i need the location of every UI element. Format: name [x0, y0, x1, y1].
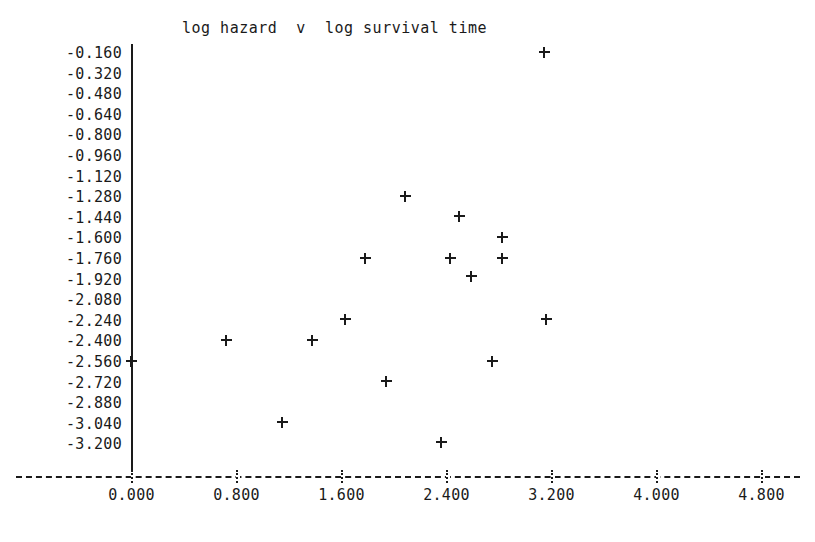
y-axis-tick-label: -1.920	[38, 271, 122, 289]
x-axis-tick-label: 4.000	[612, 486, 702, 504]
x-axis-tick-label: 0.800	[192, 486, 282, 504]
x-axis-tick-mark	[446, 470, 450, 483]
y-axis-tick: -2.240	[38, 312, 122, 328]
y-axis-tick-label: -3.200	[38, 435, 122, 453]
data-point	[466, 271, 477, 282]
y-axis-tick: -1.920	[38, 271, 122, 287]
data-point	[126, 356, 137, 367]
y-axis-tick-label: -1.280	[38, 188, 122, 206]
data-point	[497, 232, 508, 243]
scatter-plot-figure: log hazard v log survival time -0.160-0.…	[0, 0, 815, 542]
y-axis-tick: -0.480	[38, 85, 122, 101]
y-axis-tick-label: -1.760	[38, 250, 122, 268]
data-point	[221, 335, 232, 346]
x-axis-tick-mark	[236, 470, 240, 483]
data-point	[360, 253, 371, 264]
x-axis-tick-mark	[761, 470, 765, 483]
y-axis-tick-label: -2.240	[38, 312, 122, 330]
data-point	[277, 417, 288, 428]
y-axis-tick: -0.160	[38, 44, 122, 60]
y-axis-tick: -1.760	[38, 250, 122, 266]
x-axis-tick-mark	[131, 470, 135, 483]
y-axis-tick-label: -0.640	[38, 106, 122, 124]
y-axis-tick-label: -2.560	[38, 353, 122, 371]
y-axis-tick-label: -2.720	[38, 374, 122, 392]
y-axis-tick-label: -1.120	[38, 168, 122, 186]
y-axis-tick-label: -0.960	[38, 147, 122, 165]
data-point	[487, 356, 498, 367]
y-axis-tick: -0.960	[38, 147, 122, 163]
y-axis-tick-label: -1.600	[38, 229, 122, 247]
x-axis-tick-mark	[656, 470, 660, 483]
y-axis-tick-label: -0.480	[38, 85, 122, 103]
y-axis-tick-label: -0.160	[38, 44, 122, 62]
y-axis-tick: -2.080	[38, 291, 122, 307]
chart-title: log hazard v log survival time	[182, 19, 487, 37]
y-axis-tick: -1.280	[38, 188, 122, 204]
y-axis-tick-label: -2.880	[38, 394, 122, 412]
y-axis-tick-label: -2.080	[38, 291, 122, 309]
data-point	[541, 314, 552, 325]
data-point	[400, 191, 411, 202]
x-axis-tick-mark	[341, 470, 345, 483]
data-point	[445, 253, 456, 264]
y-axis-tick: -3.200	[38, 435, 122, 451]
y-axis-tick: -2.720	[38, 374, 122, 390]
data-point	[539, 47, 550, 58]
data-point	[340, 314, 351, 325]
y-axis-tick: -2.400	[38, 332, 122, 348]
y-axis-tick: -0.640	[38, 106, 122, 122]
y-axis-tick: -2.880	[38, 394, 122, 410]
data-point	[497, 253, 508, 264]
y-axis-tick: -1.120	[38, 168, 122, 184]
data-point	[454, 211, 465, 222]
x-axis-tick-label: 0.000	[87, 486, 177, 504]
data-point	[436, 437, 447, 448]
x-axis-tick-label: 2.400	[402, 486, 492, 504]
y-axis-tick: -3.040	[38, 415, 122, 431]
y-axis-tick-label: -0.800	[38, 126, 122, 144]
y-axis-tick: -1.440	[38, 209, 122, 225]
y-axis-tick-label: -0.320	[38, 65, 122, 83]
x-axis-tick-label: 1.600	[297, 486, 387, 504]
x-axis-tick-label: 3.200	[507, 486, 597, 504]
x-axis-tick-mark	[551, 470, 555, 483]
y-axis-tick-label: -3.040	[38, 415, 122, 433]
y-axis-tick-label: -1.440	[38, 209, 122, 227]
data-point	[307, 335, 318, 346]
y-axis-tick: -1.600	[38, 229, 122, 245]
y-axis-tick: -0.800	[38, 126, 122, 142]
y-axis-tick-label: -2.400	[38, 332, 122, 350]
y-axis-tick: -2.560	[38, 353, 122, 369]
data-point	[381, 376, 392, 387]
x-axis-tick-label: 4.800	[717, 486, 807, 504]
y-axis-line	[131, 44, 133, 472]
y-axis-tick: -0.320	[38, 65, 122, 81]
